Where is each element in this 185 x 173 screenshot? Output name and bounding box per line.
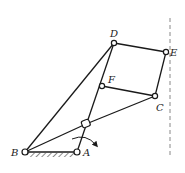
slider-block bbox=[81, 119, 91, 128]
joint-A bbox=[74, 149, 80, 155]
joint-B bbox=[22, 149, 28, 155]
label-F: F bbox=[107, 74, 116, 85]
joint-D bbox=[111, 40, 116, 45]
joint-F bbox=[99, 83, 104, 88]
joint-C bbox=[152, 93, 157, 98]
link-EC bbox=[155, 52, 166, 96]
label-A: A bbox=[82, 147, 90, 158]
rotation-arrow-icon bbox=[72, 137, 96, 145]
link-BD bbox=[25, 43, 114, 152]
ground-hatch bbox=[27, 153, 75, 157]
link-AD bbox=[77, 43, 114, 152]
label-E: E bbox=[169, 47, 178, 58]
label-D: D bbox=[109, 28, 118, 39]
link-BS bbox=[25, 124, 86, 152]
link-FC bbox=[102, 86, 155, 96]
mechanism-diagram: B A F D E C bbox=[0, 0, 185, 173]
label-B: B bbox=[10, 147, 18, 158]
link-SC bbox=[86, 96, 155, 124]
label-C: C bbox=[156, 102, 164, 113]
links bbox=[25, 43, 166, 152]
link-DE bbox=[114, 43, 166, 52]
joint-E bbox=[163, 49, 168, 54]
